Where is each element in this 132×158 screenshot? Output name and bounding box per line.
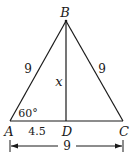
vertex-b-dot (65, 20, 68, 23)
vertex-label-a: A (4, 125, 13, 138)
side-bc-length: 9 (98, 63, 106, 75)
vertex-label-c: C (119, 125, 129, 138)
vertex-label-d: D (62, 125, 72, 138)
side-ab-length: 9 (24, 63, 32, 75)
base-ac-length: 9 (63, 140, 71, 152)
side-bc (66, 21, 123, 121)
segment-ad-length: 4.5 (28, 126, 46, 137)
angle-a-label: 60° (18, 108, 38, 119)
triangle-figure: B A D C 9 9 x 60° 4.5 9 (0, 0, 132, 158)
arrowhead-left-icon (11, 144, 18, 149)
arrowhead-right-icon (115, 144, 122, 149)
vertex-label-b: B (60, 6, 70, 19)
altitude-label: x (55, 75, 62, 88)
